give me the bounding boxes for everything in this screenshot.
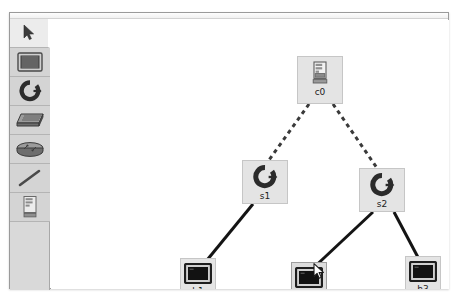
node-label-h1: h1 xyxy=(192,286,203,289)
node-s2[interactable]: s2 xyxy=(359,168,405,212)
menu-bar[interactable] xyxy=(10,13,448,19)
openflow-switch-icon xyxy=(251,164,279,190)
node-label-s1: s1 xyxy=(260,191,270,202)
controller-tower-icon xyxy=(310,60,330,86)
link-c0-s2[interactable] xyxy=(333,104,377,168)
tool-link[interactable]: Link xyxy=(10,164,50,193)
node-h1[interactable]: h1 xyxy=(180,258,216,289)
legacy-router-icon xyxy=(15,139,45,159)
tool-switch[interactable]: Switch xyxy=(10,77,50,106)
tool-legacy-router[interactable]: LegacyRouter xyxy=(10,135,50,164)
host-monitor-icon xyxy=(295,267,323,288)
legacy-switch-icon xyxy=(15,110,45,130)
cursor-arrow-icon xyxy=(21,24,37,42)
node-h2[interactable]: h2 xyxy=(291,262,327,289)
node-label-s2: s2 xyxy=(377,199,387,210)
node-label-h3: h3 xyxy=(417,284,428,289)
tool-palette: Select Host Switc xyxy=(10,19,50,290)
openflow-switch-icon xyxy=(251,165,279,189)
miniedit-window: Select Host Switc xyxy=(9,12,449,289)
node-h3[interactable]: h3 xyxy=(405,256,441,289)
link-layer xyxy=(51,20,449,289)
host-monitor-icon xyxy=(17,52,43,72)
host-monitor-icon xyxy=(409,260,437,283)
link-c0-s1[interactable] xyxy=(269,104,309,160)
tool-legacy-switch[interactable]: LegacySwitch xyxy=(10,106,50,135)
controller-tower-icon xyxy=(19,195,41,219)
topology-canvas[interactable]: c0s1s2h1h2h3 xyxy=(51,20,449,289)
link-s1-h1[interactable] xyxy=(203,204,253,265)
tool-host[interactable]: Host xyxy=(10,48,50,77)
link-line-icon xyxy=(17,168,43,188)
host-monitor-icon xyxy=(295,266,323,289)
openflow-switch-icon xyxy=(368,172,396,198)
host-monitor-icon xyxy=(409,261,437,282)
node-label-c0: c0 xyxy=(315,87,326,98)
host-monitor-icon xyxy=(184,262,212,285)
openflow-switch-icon xyxy=(368,173,396,197)
host-monitor-icon xyxy=(184,263,212,284)
node-c0[interactable]: c0 xyxy=(297,56,343,104)
tool-controller[interactable]: Controller xyxy=(10,193,50,222)
openflow-switch-icon xyxy=(17,80,43,102)
node-s1[interactable]: s1 xyxy=(242,160,288,204)
controller-tower-icon xyxy=(310,61,330,86)
tool-select[interactable]: Select xyxy=(10,19,50,48)
